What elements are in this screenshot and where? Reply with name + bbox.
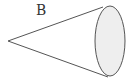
cone-bottom-edge (8, 41, 108, 77)
cone-top-edge (8, 7, 103, 41)
cone-icon (0, 0, 126, 80)
figure-label: B (36, 2, 46, 18)
cone-diagram: B (0, 0, 126, 80)
cone-base-ellipse (95, 6, 125, 76)
